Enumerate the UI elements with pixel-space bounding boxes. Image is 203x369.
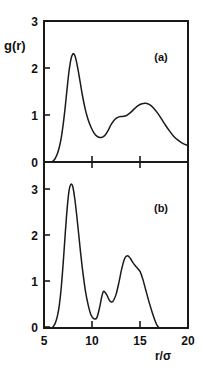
y-axis-label: g(r) (4, 38, 26, 53)
panel-b-xtick-label-10: 10 (85, 334, 99, 348)
panel-b-tag: (b) (154, 202, 168, 214)
panel-b-xtick-label-5: 5 (41, 334, 48, 348)
panel-a-curve (44, 54, 188, 162)
panel-a-ytick-label-0: 0 (31, 156, 38, 170)
panel-b-ytick-label-3: 3 (31, 183, 38, 197)
panel-a-tag: (a) (154, 51, 168, 63)
panel-a-frame (44, 21, 188, 162)
panel-b-ytick-label-1: 1 (31, 275, 38, 289)
figure-container: 3 2 1 0 g(r) (a) (0, 0, 203, 369)
panel-a-ytick-label-2: 2 (31, 62, 38, 76)
panel-b-ytick-label-0: 0 (31, 321, 38, 335)
panel-b-xtick-label-15: 15 (133, 334, 147, 348)
panel-b: 3 2 1 0 5 10 15 20 r/σ (b) (31, 162, 195, 363)
panel-a: 3 2 1 0 g(r) (a) (4, 15, 188, 170)
panel-a-ytick-label-1: 1 (31, 109, 38, 123)
panel-b-ytick-label-2: 2 (31, 229, 38, 243)
panel-b-frame (44, 162, 188, 328)
x-axis-label: r/σ (155, 349, 171, 363)
panel-b-curve (44, 184, 159, 328)
panel-a-ytick-label-3: 3 (31, 15, 38, 29)
radial-distribution-figure: 3 2 1 0 g(r) (a) (0, 0, 203, 369)
panel-b-xtick-label-20: 20 (181, 334, 195, 348)
